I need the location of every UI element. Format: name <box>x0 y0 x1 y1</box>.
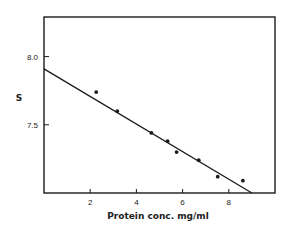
axis-ticks: 24687.58.0 <box>27 53 232 207</box>
data-points <box>94 90 244 182</box>
x-tick-label: 4 <box>134 198 139 207</box>
x-tick-label: 8 <box>227 198 232 207</box>
plot-border <box>44 17 275 193</box>
chart: 24687.58.0 Protein conc. mg/ml S <box>0 0 289 225</box>
data-point <box>197 158 201 162</box>
data-point <box>216 175 220 179</box>
data-point <box>175 150 179 154</box>
y-tick-label: 8.0 <box>27 53 39 62</box>
data-point <box>166 139 170 143</box>
regression-line <box>44 69 252 193</box>
data-point <box>115 109 119 113</box>
plot-frame <box>44 17 275 193</box>
x-axis-label: Protein conc. mg/ml <box>107 211 209 221</box>
data-point <box>94 90 98 94</box>
fit-line <box>44 69 252 193</box>
y-axis-label: S <box>16 93 22 103</box>
y-tick-label: 7.5 <box>27 121 39 130</box>
data-point <box>241 179 245 183</box>
x-tick-label: 6 <box>180 198 185 207</box>
data-point <box>150 131 154 135</box>
x-tick-label: 2 <box>88 198 93 207</box>
